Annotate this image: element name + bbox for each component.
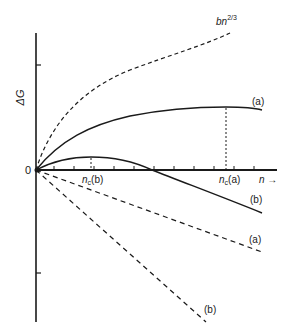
curve-a-solid (36, 107, 262, 170)
label-solid-b: (b) (250, 195, 262, 205)
label-dashed-b: (b) (204, 305, 216, 315)
label-dashed-a: (a) (249, 235, 261, 245)
bn-label: bn2/3 (216, 17, 237, 27)
diagram-canvas (0, 0, 293, 335)
arrow-right-icon: → (267, 174, 277, 185)
nc-b-label: nc(b) (82, 175, 103, 185)
curve-bn-two-thirds (36, 33, 230, 170)
origin-label: 0 (25, 165, 31, 176)
line-b-dashed (36, 170, 206, 322)
label-solid-a: (a) (252, 97, 264, 107)
x-axis-label: n → (259, 175, 277, 185)
nc-a-label: nc(a) (219, 175, 240, 185)
curve-b-solid (36, 157, 262, 213)
y-axis-label: ΔG (15, 90, 26, 106)
